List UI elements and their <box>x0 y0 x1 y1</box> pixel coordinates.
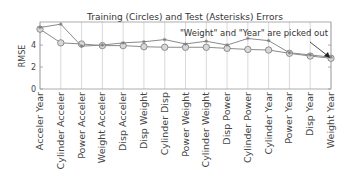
y-axis-label: RMSE <box>18 45 27 68</box>
x-category-label: Disp Weight <box>138 92 149 149</box>
test-point <box>80 44 84 48</box>
x-category-label: Cylinder Weight <box>200 92 211 168</box>
test-point <box>142 40 146 44</box>
test-point <box>101 43 105 47</box>
x-category-label: Weight Acceler <box>96 92 107 163</box>
test-point <box>308 53 312 57</box>
chart-title: Training (Circles) and Test (Asterisks) … <box>86 12 283 22</box>
test-point <box>163 38 167 42</box>
x-category-label: Power Acceler <box>76 92 87 159</box>
test-point <box>267 39 271 43</box>
x-category-label: Cylinder Year <box>263 92 274 155</box>
annotation-text: "Weight" and "Year" are picked out <box>180 28 329 38</box>
training-point <box>58 40 64 46</box>
test-point <box>121 41 125 45</box>
training-point <box>245 46 251 52</box>
x-category-label: Acceler Year <box>34 92 45 150</box>
test-point <box>204 39 208 43</box>
test-point <box>288 51 292 55</box>
x-category-label: Disp Power <box>221 92 232 145</box>
training-point <box>265 47 271 53</box>
training-point <box>141 44 147 50</box>
y-axis-ticks: 024 <box>31 41 331 94</box>
y-tick-label: 2 <box>31 63 36 72</box>
y-tick-label: 4 <box>31 41 36 50</box>
test-point <box>225 43 229 47</box>
training-point <box>162 44 168 50</box>
x-category-label: Power Year <box>283 92 294 144</box>
x-category-label: Disp Year <box>304 92 315 136</box>
x-category-label: Weight Year <box>325 92 336 148</box>
x-category-label: Cylinder Power <box>242 92 253 163</box>
x-category-label: Cylinder Acceler <box>55 92 66 169</box>
x-category-label: Power Weight <box>180 92 191 157</box>
rmse-chart: Training (Circles) and Test (Asterisks) … <box>0 0 357 177</box>
x-category-label: Disp Acceler <box>117 92 128 151</box>
x-axis-category-labels: Acceler YearCylinder AccelerPower Accele… <box>34 92 336 170</box>
x-category-label: Cylinder Disp <box>159 92 170 155</box>
test-point <box>59 22 63 26</box>
test-point <box>329 55 333 59</box>
training-point <box>203 44 209 50</box>
test-point <box>38 26 42 30</box>
